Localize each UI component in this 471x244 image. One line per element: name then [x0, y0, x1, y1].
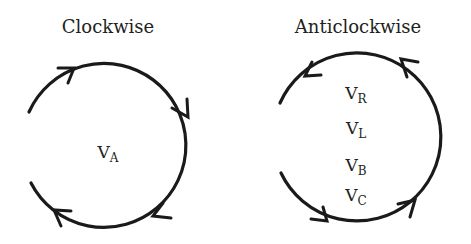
clockwise-panel: Clockwise VA: [0, 0, 235, 244]
anticlockwise-panel: Anticlockwise VR VL VB VC: [235, 0, 471, 244]
clockwise-loop-diagram: [0, 0, 235, 244]
label-vl: VL: [346, 120, 366, 140]
label-va: VA: [98, 144, 119, 164]
label-vb: VB: [345, 157, 366, 177]
arrow-down-left-icon: [153, 203, 171, 218]
label-vr: VR: [345, 85, 366, 105]
label-vc: VC: [345, 187, 366, 207]
arrow-up-left-icon: [401, 59, 418, 77]
